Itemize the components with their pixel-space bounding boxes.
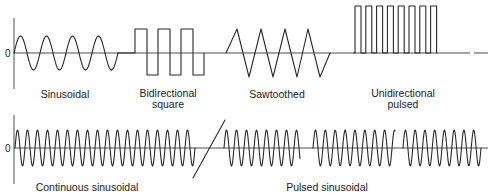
- bidirectional-square-label-line2: square: [152, 98, 184, 110]
- pulsed-sinusoidal-label: Pulsed sinusoidal: [286, 181, 368, 193]
- top-row: 0 Sinusoidal Bidirectional square Sawtoo…: [5, 6, 488, 110]
- continuous-sinusoidal-label: Continuous sinusoidal: [36, 181, 139, 193]
- bottom-row: 0 Continuous sinusoidal Pulsed sinusoida…: [5, 115, 488, 193]
- sinusoidal-label: Sinusoidal: [41, 88, 89, 100]
- time-break-slash: [193, 120, 225, 178]
- bidirectional-square-wave: [118, 29, 204, 75]
- sawtoothed-label: Sawtoothed: [249, 88, 305, 100]
- unidirectional-pulsed-label-line2: pulsed: [388, 98, 419, 110]
- waveform-figure: 0 Sinusoidal Bidirectional square Sawtoo…: [0, 0, 491, 195]
- bottom-zero-label: 0: [5, 143, 11, 154]
- top-zero-label: 0: [5, 48, 11, 59]
- unidirectional-pulsed-wave: [354, 6, 437, 53]
